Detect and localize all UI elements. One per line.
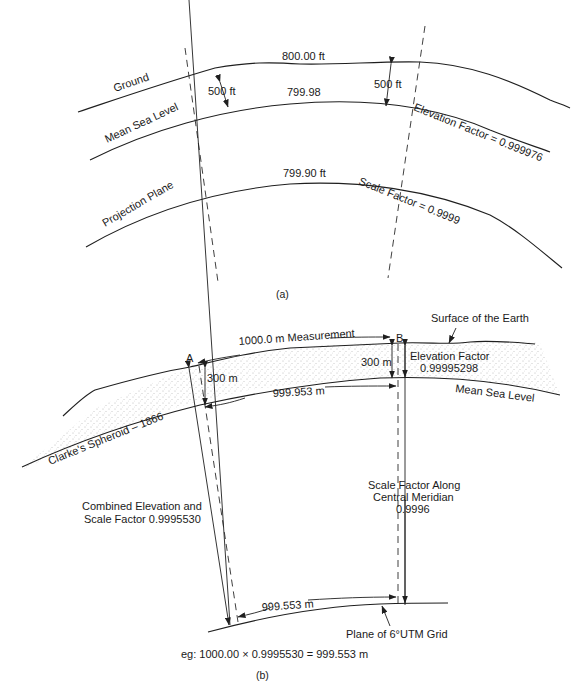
surface-label: Surface of the Earth — [431, 312, 529, 324]
msl-value: 799.98 — [287, 86, 321, 98]
caption-b: (b) — [256, 669, 269, 681]
grid-label: Plane of 6°UTM Grid — [346, 628, 448, 640]
scale-factor-label: Scale Factor = 0.9999 — [357, 175, 462, 227]
height-right-label: 500 ft — [374, 78, 402, 90]
scale-cm-line2: Central Meridian — [373, 491, 454, 503]
elevation-factor-value: 0.99995298 — [420, 362, 478, 374]
point-a-label: A — [186, 352, 194, 364]
figure-b: 1000.0 m Measurement A B Surface of the … — [20, 0, 560, 681]
point-b-label: B — [396, 332, 403, 344]
meridian-right — [388, 26, 425, 278]
combined-factor-line1: Combined Elevation and — [82, 500, 202, 512]
meridian-left — [185, 48, 218, 282]
ground-curve — [78, 62, 570, 112]
caption-a: (a) — [276, 288, 289, 300]
height-left-label: 500 ft — [208, 85, 236, 97]
surface-pointer — [449, 328, 456, 343]
elevation-factor-label: Elevation Factor = 0.999976 — [412, 101, 544, 164]
scale-cm-line1: Scale Factor Along — [368, 479, 460, 491]
figure-a: 800.00 ft 799.98 799.90 ft 500 ft 500 ft… — [78, 26, 570, 300]
example-equation: eg: 1000.00 × 0.9995530 = 999.553 m — [181, 648, 368, 660]
msl-distance-arrow-right — [325, 386, 396, 387]
projection-value: 799.90 ft — [283, 167, 326, 179]
msl-distance-label: 999.953 m — [272, 384, 325, 399]
elevation-factor-label: Elevation Factor — [410, 350, 490, 362]
grid-distance-arrow-right — [308, 597, 396, 600]
geodetic-diagram: 800.00 ft 799.98 799.90 ft 500 ft 500 ft… — [0, 0, 582, 688]
height-a-label: 300 m — [207, 372, 238, 384]
measurement-label: 1000.0 m Measurement — [238, 327, 355, 347]
grid-pointer — [382, 606, 390, 626]
top-value: 800.00 ft — [282, 50, 325, 62]
height-b-label: 300 m — [361, 356, 392, 368]
combined-factor-line2: Scale Factor 0.9995530 — [84, 513, 201, 525]
scale-cm-line3: 0.9996 — [396, 503, 430, 515]
